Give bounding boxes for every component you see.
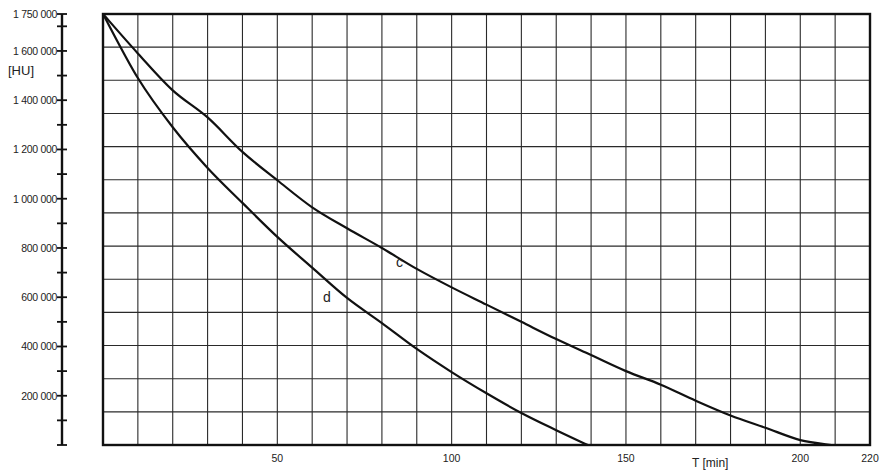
y-tick-label: 800 000 [21,242,57,254]
x-axis-tick-labels: 50100150200220 [271,452,878,464]
y-tick-label: 1 750 000 [13,8,57,20]
x-tick-label: 200 [792,452,810,464]
y-tick-label: 1 000 000 [13,193,57,205]
y-tick-label: 200 000 [21,390,57,402]
y-tick-label: 1 400 000 [13,94,57,106]
x-tick-label: 220 [861,452,879,464]
x-tick-label: 100 [443,452,461,464]
curve-d [103,14,588,445]
y-tick-label: 600 000 [21,291,57,303]
y-tick-label: 400 000 [21,340,57,352]
curve-c [103,14,832,445]
y-tick-label: 1 200 000 [13,143,57,155]
chart-grid [103,14,870,445]
curve-d-label: d [323,289,331,305]
x-tick-label: 50 [271,452,283,464]
chart-canvas: 1 750 0001 600 0001 400 0001 200 0001 00… [0,0,881,475]
chart-curves [103,14,832,445]
curve-c-label: c [396,254,403,270]
y-axis-unit-label: [HU] [8,63,34,78]
y-tick-label: 1 600 000 [13,45,57,57]
x-axis-title: T [min] [692,456,728,470]
x-tick-label: 150 [617,452,635,464]
